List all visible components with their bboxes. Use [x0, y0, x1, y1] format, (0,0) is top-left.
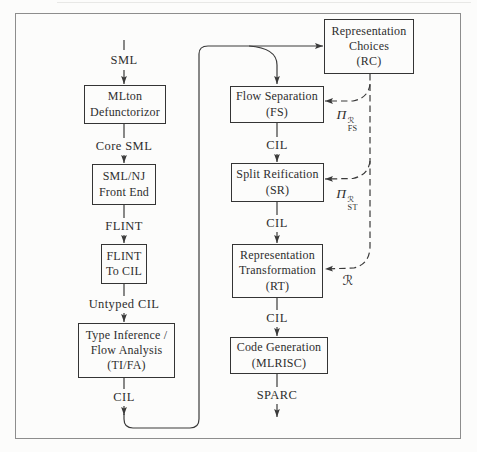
box-line: Transformation [239, 263, 316, 278]
edge-rc-dashed-to-sr [325, 161, 370, 179]
box-line: Code Generation [237, 340, 322, 355]
pi-subscript: FS [348, 125, 358, 134]
label-untyped-cil: Untyped CIL [89, 297, 160, 312]
pi-symbol: Π [337, 107, 347, 122]
box-line: (SR) [266, 183, 289, 198]
box-line: Split Reification [236, 167, 318, 182]
label-cil-left: CIL [113, 390, 134, 405]
box-representation-transformation: Representation Transformation (RT) [232, 244, 323, 298]
label-pi-fs: ΠℛFS [337, 105, 358, 133]
edge-rc-dashed-to-fs [325, 84, 370, 101]
box-mlton-defunctorizor: MLton Defunctorizor [84, 85, 166, 124]
script-r-symbol: ℛ [343, 272, 354, 288]
box-code-generation: Code Generation (MLRISC) [230, 337, 328, 374]
label-cil-fs-sr: CIL [266, 138, 287, 153]
label-flint: FLINT [105, 219, 142, 234]
label-pi-st: ΠℛST [336, 184, 357, 212]
box-line: (MLRISC) [252, 356, 306, 371]
label-core-sml: Core SML [96, 139, 152, 154]
pi-symbol: Π [336, 186, 346, 201]
box-line: Defunctorizor [90, 105, 160, 120]
box-smlnj-front-end: SML/NJ Front End [92, 164, 156, 205]
box-line: FLINT [107, 249, 142, 264]
box-line: Type Inference / [86, 328, 168, 343]
box-line: MLton [108, 89, 142, 104]
box-line: Flow Separation [236, 89, 318, 104]
label-sml: SML [111, 53, 138, 68]
edge-rc-dashed-to-rt [325, 74, 370, 269]
edge-pipe-branch-to-fs [249, 46, 277, 84]
box-line: (RC) [357, 54, 382, 69]
label-cil-rt-cg: CIL [266, 311, 287, 326]
box-representation-choices: Representation Choices (RC) [324, 19, 414, 74]
box-line: (FS) [266, 105, 288, 120]
box-line: Flow Analysis [91, 343, 163, 358]
box-line: Choices [349, 39, 389, 54]
box-flint-to-cil: FLINT To CIL [101, 244, 147, 284]
label-sparc: SPARC [257, 388, 297, 403]
box-line: Representation [240, 248, 315, 263]
box-type-inference-flow-analysis: Type Inference / Flow Analysis (TI/FA) [78, 323, 175, 378]
label-script-r: ℛ [343, 271, 354, 289]
figure-page: MLton Defunctorizor SML/NJ Front End FLI… [0, 0, 477, 452]
box-line: To CIL [106, 264, 142, 279]
label-cil-sr-rt: CIL [266, 216, 287, 231]
box-line: Representation [332, 24, 407, 39]
box-flow-separation: Flow Separation (FS) [230, 86, 324, 123]
box-line: Front End [99, 185, 149, 200]
box-line: SML/NJ [103, 169, 146, 184]
box-line: (RT) [266, 279, 289, 294]
box-split-reification: Split Reification (SR) [231, 163, 324, 202]
pi-subscript: ST [348, 204, 358, 213]
box-line: (TI/FA) [107, 358, 146, 373]
